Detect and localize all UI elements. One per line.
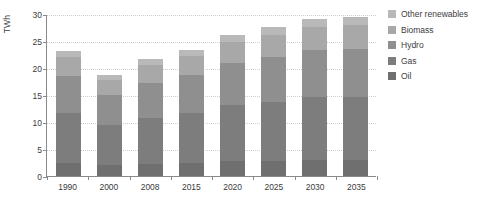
bar-group-2000[interactable] bbox=[89, 15, 130, 176]
x-tick-mark bbox=[130, 176, 131, 180]
x-tick-mark bbox=[212, 176, 213, 180]
legend-label: Biomass bbox=[401, 26, 434, 35]
x-tick-mark bbox=[377, 176, 378, 180]
stacked-bar[interactable] bbox=[97, 75, 122, 175]
x-tick-label-2030: 2030 bbox=[306, 182, 325, 192]
bar-segment-biomass bbox=[138, 65, 163, 82]
stacked-bar[interactable] bbox=[220, 35, 245, 175]
bar-segment-other-renewables bbox=[261, 27, 286, 35]
bar-segment-oil bbox=[138, 164, 163, 175]
x-tick-mark bbox=[88, 176, 89, 180]
stacked-bar[interactable] bbox=[56, 51, 81, 175]
bar-group-2030[interactable] bbox=[294, 15, 335, 176]
x-tick-label-2000: 2000 bbox=[99, 182, 118, 192]
x-tick-mark bbox=[336, 176, 337, 180]
x-tick-label-2035: 2035 bbox=[347, 182, 366, 192]
x-tick-mark bbox=[171, 176, 172, 180]
bar-segment-other-renewables bbox=[343, 17, 368, 25]
bar-segment-hydro bbox=[97, 95, 122, 125]
legend-swatch-icon bbox=[388, 41, 396, 49]
bar-segment-biomass bbox=[97, 80, 122, 95]
y-tick-label: 20 bbox=[33, 64, 42, 74]
legend-swatch-icon bbox=[388, 57, 396, 65]
bar-segment-oil bbox=[220, 161, 245, 175]
bar-segment-gas bbox=[179, 113, 204, 163]
bar-segment-gas bbox=[220, 105, 245, 161]
legend-label: Other renewables bbox=[401, 10, 468, 19]
legend-swatch-icon bbox=[388, 72, 396, 80]
bar-segment-hydro bbox=[56, 76, 81, 113]
bar-segment-biomass bbox=[220, 42, 245, 63]
bar-group-2008[interactable] bbox=[130, 15, 171, 176]
bar-segment-other-renewables bbox=[302, 19, 327, 27]
bar-segment-oil bbox=[179, 163, 204, 175]
y-tick-label: 5 bbox=[37, 145, 42, 155]
legend-item-oil[interactable]: Oil bbox=[388, 72, 468, 81]
stacked-bar[interactable] bbox=[138, 59, 163, 175]
bar-segment-gas bbox=[138, 118, 163, 164]
x-tick-label-2008: 2008 bbox=[141, 182, 160, 192]
bar-segment-oil bbox=[56, 163, 81, 175]
legend-label: Gas bbox=[401, 57, 417, 66]
bar-group-2035[interactable] bbox=[335, 15, 376, 176]
bar-segment-hydro bbox=[179, 75, 204, 113]
y-tick-mark bbox=[43, 42, 47, 43]
bar-segment-biomass bbox=[302, 27, 327, 51]
bar-segment-oil bbox=[302, 160, 327, 176]
bar-segment-biomass bbox=[179, 56, 204, 75]
bar-segment-hydro bbox=[220, 63, 245, 105]
bar-segment-oil bbox=[97, 165, 122, 175]
y-tick-label: 15 bbox=[33, 91, 42, 101]
bar-group-2025[interactable] bbox=[253, 15, 294, 176]
chart-legend: Other renewablesBiomassHydroGasOil bbox=[388, 10, 468, 81]
plot-area: 051015202530 199020002008201520202025203… bbox=[46, 15, 376, 177]
legend-label: Hydro bbox=[401, 41, 424, 50]
y-tick-label: 25 bbox=[33, 37, 42, 47]
bar-group-2015[interactable] bbox=[171, 15, 212, 176]
bar-segment-gas bbox=[302, 97, 327, 160]
y-axis-title: TWh bbox=[2, 4, 12, 44]
legend-item-hydro[interactable]: Hydro bbox=[388, 41, 468, 50]
x-tick-label-2015: 2015 bbox=[182, 182, 201, 192]
y-tick-mark bbox=[43, 96, 47, 97]
y-tick-mark bbox=[43, 15, 47, 16]
x-tick-mark bbox=[253, 176, 254, 180]
bar-segment-gas bbox=[97, 125, 122, 165]
bar-segment-biomass bbox=[261, 35, 286, 57]
bar-segment-hydro bbox=[302, 50, 327, 97]
bar-segment-gas bbox=[343, 97, 368, 160]
stacked-bar[interactable] bbox=[302, 19, 327, 176]
bar-group-2020[interactable] bbox=[212, 15, 253, 176]
stacked-bar[interactable] bbox=[179, 50, 204, 176]
bar-segment-other-renewables bbox=[220, 35, 245, 42]
bar-segment-gas bbox=[56, 113, 81, 163]
x-tick-label-1990: 1990 bbox=[58, 182, 77, 192]
bar-segment-gas bbox=[261, 102, 286, 161]
legend-item-biomass[interactable]: Biomass bbox=[388, 26, 468, 35]
y-tick-mark bbox=[43, 123, 47, 124]
y-tick-mark bbox=[43, 150, 47, 151]
stacked-bar[interactable] bbox=[261, 27, 286, 176]
legend-swatch-icon bbox=[388, 26, 396, 34]
stacked-bar[interactable] bbox=[343, 17, 368, 175]
y-tick-label: 30 bbox=[33, 10, 42, 20]
bar-chart: TWh 051015202530 19902000200820152020202… bbox=[0, 0, 482, 204]
legend-item-other-renewables[interactable]: Other renewables bbox=[388, 10, 468, 19]
x-tick-mark bbox=[47, 176, 48, 180]
y-tick-label: 0 bbox=[37, 172, 42, 182]
bar-group-1990[interactable] bbox=[48, 15, 89, 176]
bar-segment-hydro bbox=[343, 49, 368, 97]
y-tick-mark bbox=[43, 69, 47, 70]
x-tick-mark bbox=[295, 176, 296, 180]
bar-segment-biomass bbox=[56, 57, 81, 76]
x-tick-label-2025: 2025 bbox=[264, 182, 283, 192]
bar-segment-hydro bbox=[138, 83, 163, 118]
bar-segment-hydro bbox=[261, 57, 286, 102]
y-tick-label: 10 bbox=[33, 118, 42, 128]
bar-segment-oil bbox=[343, 160, 368, 176]
x-tick-label-2020: 2020 bbox=[223, 182, 242, 192]
legend-item-gas[interactable]: Gas bbox=[388, 57, 468, 66]
bars-layer bbox=[48, 15, 376, 176]
legend-swatch-icon bbox=[388, 10, 396, 18]
legend-label: Oil bbox=[401, 72, 411, 81]
